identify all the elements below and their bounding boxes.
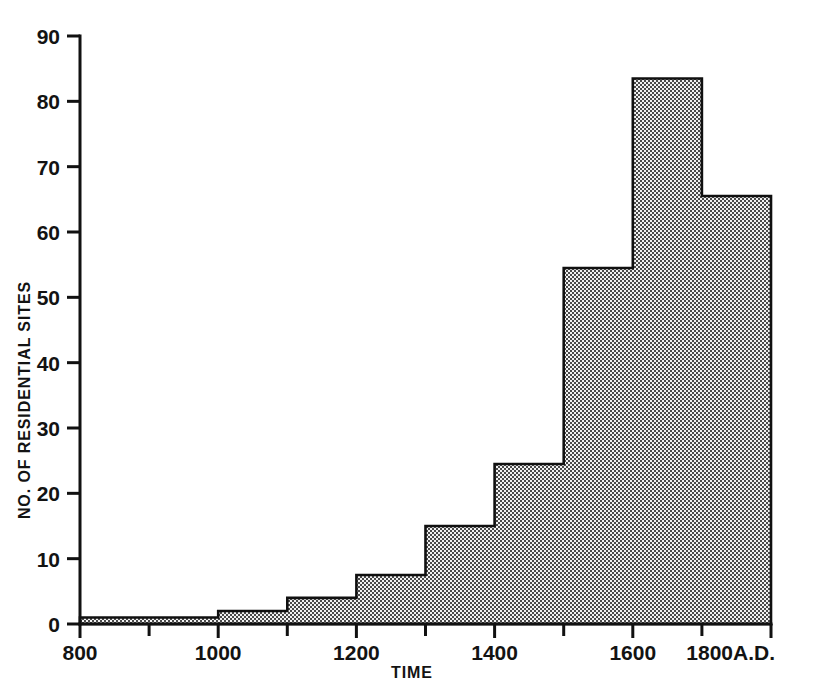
y-tick-label: 80: [37, 90, 60, 113]
x-axis-title: TIME: [391, 664, 433, 681]
x-tick-label: 1600: [609, 641, 656, 664]
chart-figure: 0102030405060708090 80010001200140016001…: [0, 0, 820, 699]
y-tick-label: 0: [48, 613, 60, 636]
y-axis-ticks: 0102030405060708090: [37, 25, 80, 636]
x-tick-label: 1200: [333, 641, 380, 664]
x-tick-label: 800: [62, 641, 97, 664]
y-tick-label: 60: [37, 221, 60, 244]
x-tick-label: 1000: [195, 641, 242, 664]
y-tick-label: 90: [37, 25, 60, 48]
y-tick-label: 20: [37, 482, 60, 505]
y-axis-title: NO. OF RESIDENTIAL SITES: [16, 281, 33, 519]
y-tick-label: 30: [37, 417, 60, 440]
x-axis-ticks: 80010001200140016001800A.D.: [62, 624, 775, 664]
y-tick-label: 70: [37, 156, 60, 179]
x-tick-label: 1800A.D.: [686, 641, 775, 664]
histogram-plot: 0102030405060708090 80010001200140016001…: [0, 0, 820, 699]
y-tick-label: 10: [37, 548, 60, 571]
histogram-step-area: [80, 78, 771, 624]
y-tick-label: 50: [37, 286, 60, 309]
x-tick-label: 1400: [471, 641, 518, 664]
histogram-bars: [80, 78, 771, 624]
y-tick-label: 40: [37, 352, 60, 375]
